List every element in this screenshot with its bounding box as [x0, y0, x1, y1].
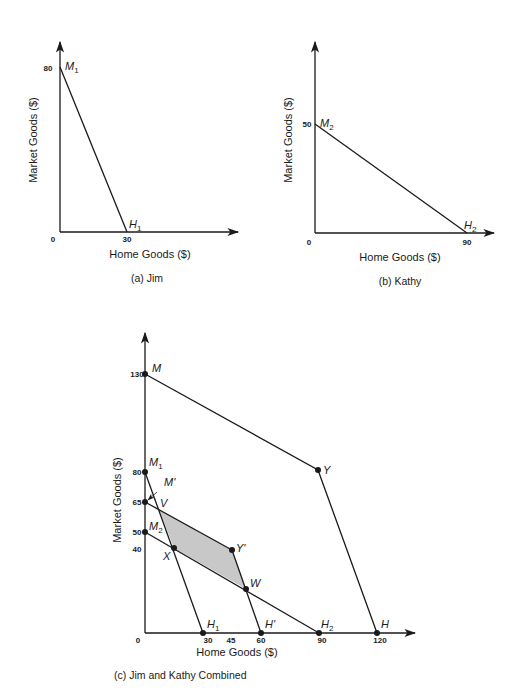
label-yprime: Y' — [236, 542, 246, 554]
label-x: X — [162, 550, 171, 562]
point-yprime — [229, 547, 235, 553]
combined-x-tick-30: 30 — [204, 636, 213, 645]
combined-y-tick-40: 40 — [133, 545, 142, 554]
kathy-x-tick-90: 90 — [463, 238, 472, 247]
point-w — [243, 586, 249, 592]
combined-caption: (c) Jim and Kathy Combined — [114, 669, 247, 681]
panel-jim: 80 0 30 M1 H1 Market Goods ($) Home Good… — [27, 42, 238, 284]
label-w: W — [250, 577, 262, 589]
label-h1: H1 — [207, 618, 220, 633]
jim-y-axis-label: Market Goods ($) — [27, 97, 39, 183]
combined-x-tick-60: 60 — [257, 636, 266, 645]
jim-origin-label: 0 — [51, 235, 56, 244]
label-h2: H2 — [321, 618, 334, 633]
combined-x-axis-label: Home Goods ($) — [196, 646, 277, 658]
jim-x-axis-label: Home Goods ($) — [109, 248, 190, 260]
point-m2 — [142, 529, 148, 535]
point-m1 — [142, 469, 148, 475]
combined-x-tick-45: 45 — [227, 636, 236, 645]
combined-x-tick-120: 120 — [373, 636, 387, 645]
jim-label-m1: M1 — [65, 60, 79, 75]
jim-x-tick-30: 30 — [123, 235, 132, 244]
jim-caption: (a) Jim — [131, 272, 163, 284]
panel-combined: 130 80 65 50 40 0 30 45 60 90 120 M M1 M… — [111, 333, 415, 681]
point-x — [171, 545, 177, 551]
kathy-caption: (b) Kathy — [379, 275, 422, 287]
panel-kathy: 50 0 90 M2 H2 Market Goods ($) Home Good… — [282, 42, 494, 287]
kathy-ppf-line — [315, 124, 467, 233]
combined-y-axis-label: Market Goods ($) — [111, 457, 123, 543]
point-mprime — [142, 499, 148, 505]
kathy-y-tick-50: 50 — [303, 120, 312, 129]
kathy-origin-label: 0 — [307, 238, 312, 247]
combined-y-tick-65: 65 — [133, 498, 142, 507]
label-h: H — [381, 618, 389, 630]
combined-origin-label: 0 — [136, 636, 141, 645]
point-y — [315, 467, 321, 473]
figure-canvas: 80 0 30 M1 H1 Market Goods ($) Home Good… — [0, 0, 521, 692]
combined-y-tick-80: 80 — [133, 468, 142, 477]
jim-label-h1: H1 — [129, 218, 142, 233]
combined-y-tick-50: 50 — [133, 528, 142, 537]
jim-ppf-line — [60, 67, 127, 232]
label-m2: M2 — [149, 520, 163, 535]
label-v: V — [160, 497, 169, 509]
combined-x-tick-90: 90 — [318, 636, 327, 645]
label-m1: M1 — [149, 456, 163, 471]
label-m: M — [152, 362, 162, 374]
combined-ppf-line — [145, 374, 377, 633]
label-hprime: H' — [265, 618, 276, 630]
kathy-y-axis-label: Market Goods ($) — [282, 97, 294, 183]
label-y: Y — [323, 464, 331, 476]
kathy-x-axis-label: Home Goods ($) — [359, 251, 440, 263]
label-mprime: M' — [164, 476, 176, 488]
combined-y-tick-130: 130 — [130, 370, 144, 379]
jim-y-tick-80: 80 — [44, 64, 53, 73]
